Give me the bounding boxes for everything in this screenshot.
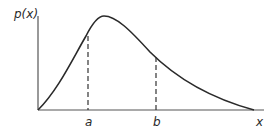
x-axis-label: x xyxy=(255,115,264,129)
y-axis-label: p(x) xyxy=(13,7,38,21)
density-curve xyxy=(38,16,254,110)
marker-a-label: a xyxy=(85,115,92,129)
density-diagram: p(x) a b x xyxy=(0,0,280,132)
marker-b-label: b xyxy=(153,115,161,129)
